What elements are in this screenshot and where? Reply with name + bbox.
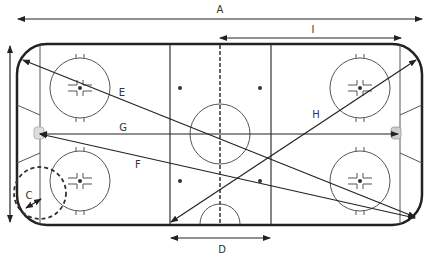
arrow-H <box>171 60 416 222</box>
label-E: E <box>119 87 125 98</box>
right-goal-icon <box>391 127 401 139</box>
label-F: F <box>135 159 141 170</box>
hockey-rink-diagram: A I C D E F G H <box>0 0 434 265</box>
label-I: I <box>312 24 315 35</box>
label-C: C <box>26 190 33 201</box>
label-H: H <box>312 109 320 120</box>
label-A: A <box>217 4 224 15</box>
left-goal-icon <box>34 127 44 139</box>
arrow-E <box>23 60 415 217</box>
label-D: D <box>218 244 226 255</box>
label-G: G <box>119 122 127 133</box>
